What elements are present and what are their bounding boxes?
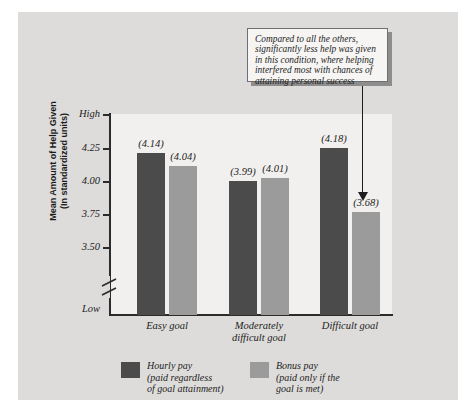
callout-line2: significantly less help was given: [255, 44, 380, 54]
callout-arrow-head-icon: [358, 192, 368, 201]
callout-arrow-line: [362, 86, 363, 194]
callout-line1: Compared to all the others,: [255, 34, 380, 44]
legend-label-bonus-pay: Bonus pay (paid only if the goal is met): [276, 360, 340, 395]
y-axis-title-line2: (In standardized units): [59, 96, 70, 226]
legend-swatch-hourly-pay: [121, 362, 140, 378]
x-category-moderate-line2: difficult goal: [223, 332, 295, 344]
bar-difficult-hourly: [320, 148, 348, 315]
y-tick-mark-high: [103, 114, 110, 116]
x-category-easy: Easy goal: [132, 320, 202, 332]
bar-label-easy-bonus: (4.04): [158, 151, 208, 162]
bar-moderate-bonus: [261, 178, 289, 315]
bar-label-difficult-hourly: (4.18): [309, 133, 359, 144]
x-category-moderate-line1: Moderately: [223, 320, 295, 332]
legend-label-hourly-pay-line3: of goal attainment): [147, 383, 224, 395]
legend-swatch-bonus-pay: [250, 362, 269, 378]
callout-line5: attaining personal success: [255, 76, 380, 86]
chart-figure: High 4.25 4.00 3.75 3.50 Low Mean Amount…: [0, 0, 474, 416]
y-tick-mark-375: [103, 214, 110, 216]
legend-label-hourly-pay-line2: (paid regardless: [147, 372, 224, 384]
y-tick-mark-350: [103, 247, 110, 249]
y-tick-label-350: 3.50: [0, 241, 100, 252]
bar-label-easy-hourly: (4.14): [126, 138, 176, 149]
y-tick-mark-425: [103, 148, 110, 150]
bar-difficult-bonus: [352, 212, 380, 315]
legend-label-bonus-pay-line2: (paid only if the: [276, 372, 340, 384]
x-category-easy-line1: Easy goal: [146, 320, 188, 331]
bar-easy-bonus: [169, 166, 197, 315]
y-axis-title: Mean Amount of Help Given (In standardiz…: [48, 96, 70, 226]
callout-line4: interfered most with chances of: [255, 65, 380, 75]
legend-label-bonus-pay-line1: Bonus pay: [276, 360, 340, 372]
y-tick-label-low: Low: [0, 303, 100, 314]
callout-line3: in this condition, where helping: [255, 55, 380, 65]
axis-break-icon: [101, 276, 119, 298]
callout-box: Compared to all the others, significantl…: [247, 28, 388, 82]
x-category-moderate: Moderately difficult goal: [223, 320, 295, 344]
y-axis-title-line1: Mean Amount of Help Given: [48, 96, 59, 226]
legend-label-bonus-pay-line3: goal is met): [276, 383, 340, 395]
bar-label-moderate-bonus: (4.01): [250, 163, 300, 174]
bar-easy-hourly: [137, 153, 165, 315]
x-category-difficult-line1: Difficult goal: [322, 320, 378, 331]
legend-label-hourly-pay: Hourly pay (paid regardless of goal atta…: [147, 360, 224, 395]
x-category-difficult: Difficult goal: [313, 320, 387, 332]
bar-moderate-hourly: [229, 181, 257, 315]
legend-label-hourly-pay-line1: Hourly pay: [147, 360, 224, 372]
y-tick-mark-400: [103, 181, 110, 183]
